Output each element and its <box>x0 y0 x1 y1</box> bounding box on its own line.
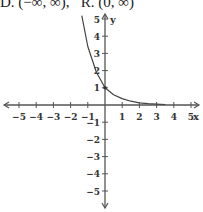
exponential-graph: −5−4−3−2−112345x54321−1−2−3−4−5y <box>0 0 203 212</box>
y-tick-label: −5 <box>86 187 100 197</box>
x-tick-label: 1 <box>119 112 125 122</box>
x-tick-label: −3 <box>46 112 60 122</box>
x-tick-label: −5 <box>12 112 26 122</box>
y-axis-label: y <box>109 14 117 25</box>
y-tick-label: −2 <box>86 135 100 145</box>
y-tick-label: 3 <box>94 49 100 59</box>
y-tick-label: −3 <box>86 152 100 162</box>
x-tick-label: −2 <box>64 112 78 122</box>
y-tick-label: 5 <box>94 15 100 25</box>
x-tick-label: 3 <box>153 112 159 122</box>
y-tick-label: 1 <box>94 83 100 93</box>
x-tick-label: 4 <box>171 112 177 122</box>
y-tick-label: −1 <box>86 118 100 128</box>
y-tick-label: −4 <box>86 169 100 179</box>
x-axis-label: x <box>193 111 200 122</box>
x-tick-label: −4 <box>29 112 43 122</box>
y-tick-label: 4 <box>94 32 100 42</box>
y-intercept-point <box>103 86 107 90</box>
x-tick-label: 2 <box>136 112 142 122</box>
